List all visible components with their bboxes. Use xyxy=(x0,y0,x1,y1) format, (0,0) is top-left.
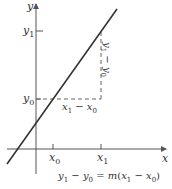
x-axis-label: x xyxy=(162,152,169,165)
run-label: x1 − x0 xyxy=(62,101,97,115)
slope-diagram: y x y1 y0 x0 x1 x1 − x0 y1 − y0 y1 − y0 … xyxy=(0,0,172,189)
x1-label: x1 xyxy=(97,151,108,166)
slope-equation: y1 − y0 = m(x1 − x0) xyxy=(57,170,160,184)
y0-label: y0 xyxy=(22,92,34,107)
y-axis-label: y xyxy=(26,0,34,13)
y1-label: y1 xyxy=(22,24,34,39)
x0-label: x0 xyxy=(49,151,60,166)
